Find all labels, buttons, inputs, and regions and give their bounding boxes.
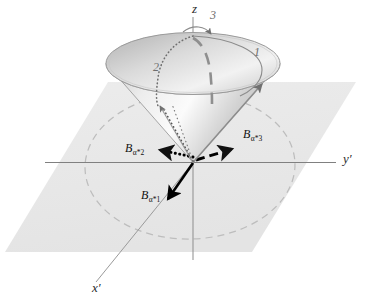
vector-label-B-alpha-2-sub: α*2 [133, 148, 144, 157]
diagram-svg [0, 0, 367, 300]
axis-label-z: z [192, 2, 197, 15]
vector-label-B-alpha-1-sub: α*1 [149, 195, 160, 204]
figure-canvas: z y′ x′ 1 2 3 Bα*2 Bα*3 Bα*1 [0, 0, 367, 300]
vector-label-B-alpha-1: Bα*1 [141, 189, 160, 201]
vector-label-B-alpha-2: Bα*2 [125, 142, 144, 154]
cone-arc-label-1: 1 [254, 46, 260, 58]
axis-label-x-prime: x′ [92, 281, 101, 294]
cone-arc-label-3: 3 [210, 9, 216, 21]
vector-label-B-alpha-3: Bα*3 [243, 128, 262, 140]
vector-label-B-alpha-1-base: B [141, 188, 148, 202]
cone-rim-ellipse [106, 33, 280, 95]
axis-label-y-prime: y′ [343, 152, 352, 165]
vector-label-B-alpha-3-base: B [243, 127, 250, 141]
vector-label-B-alpha-3-sub: α*3 [251, 134, 262, 143]
vector-label-B-alpha-2-base: B [125, 141, 132, 155]
cone-arc-label-2: 2 [153, 61, 159, 73]
